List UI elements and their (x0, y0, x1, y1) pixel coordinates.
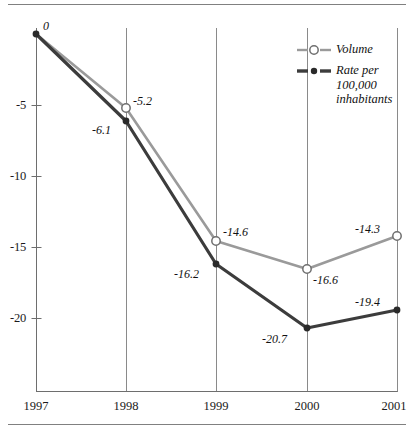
point-label-2000-volume: -16.6 (313, 274, 338, 286)
y-tick-label--15: -15 (0, 241, 26, 254)
y-tick-label--10: -10 (0, 170, 26, 183)
x-tick-label-2001: 2001 (364, 400, 414, 413)
point-label-1997-0: 0 (43, 20, 49, 32)
point-label-2001-volume: -14.3 (355, 223, 380, 235)
y-tick-label--5: -5 (0, 99, 26, 112)
legend-item-volume[interactable]: Volume (296, 42, 408, 57)
point-label-1999-rate: -16.2 (174, 268, 199, 280)
legend-label-rate-line1: Rate per (336, 63, 379, 77)
rate-marker-1998 (123, 118, 130, 125)
volume-marker-1999 (212, 237, 220, 245)
rate-marker-2001 (394, 307, 401, 314)
volume-marker-2001 (393, 232, 401, 240)
x-tick-label-1999: 1999 (186, 400, 246, 413)
chart-figure: -5 -10 -15 -20 1997 1998 1999 2000 2001 … (0, 0, 414, 432)
legend-marker-volume-open-circle (296, 43, 332, 57)
volume-marker-2000 (303, 265, 311, 273)
rate-marker-1999 (213, 261, 220, 268)
y-tick-label--20: -20 (0, 312, 26, 325)
point-label-2000-rate: -20.7 (262, 333, 287, 345)
y-axis (32, 28, 42, 392)
point-label-1998-rate: -6.1 (92, 124, 111, 136)
legend-label-rate-line3: inhabitants (336, 92, 392, 106)
chart-legend: Volume Rate per 100,000 inhabitants (296, 42, 408, 113)
legend-label-volume: Volume (332, 42, 373, 57)
point-label-1998-volume: -5.2 (133, 95, 152, 107)
rate-marker-1997 (33, 31, 40, 38)
point-label-2001-rate: -19.4 (355, 296, 380, 308)
volume-marker-1998 (122, 104, 130, 112)
point-label-1999-volume: -14.6 (223, 226, 248, 238)
legend-label-rate-line2: 100,000 (336, 78, 377, 92)
x-tick-label-1997: 1997 (6, 400, 66, 413)
x-tick-label-2000: 2000 (277, 400, 337, 413)
rate-marker-2000 (304, 325, 311, 332)
x-tick-label-1998: 1998 (96, 400, 156, 413)
legend-label-rate: Rate per 100,000 inhabitants (332, 63, 392, 107)
legend-marker-rate-filled-dot (296, 64, 332, 78)
legend-item-rate[interactable]: Rate per 100,000 inhabitants (296, 63, 408, 107)
